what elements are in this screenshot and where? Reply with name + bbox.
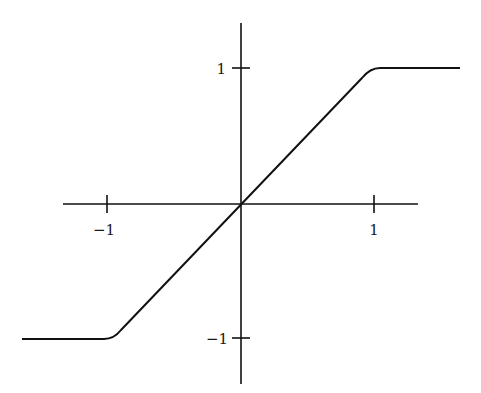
y-tick-label-1: 1 xyxy=(216,60,226,78)
saturation-plot: −1 1 1 −1 xyxy=(0,0,481,393)
x-tick-label-1: 1 xyxy=(369,221,379,239)
x-tick-label-neg1: −1 xyxy=(93,221,115,239)
y-tick-label-neg1: −1 xyxy=(206,330,228,348)
